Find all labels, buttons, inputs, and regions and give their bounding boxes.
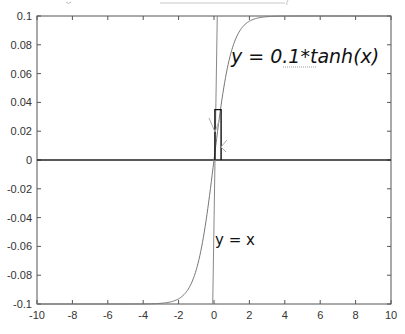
y-tick-label: -0.1	[13, 298, 32, 310]
x-tick-label: -6	[103, 309, 113, 321]
y-tick-label: 0.1	[17, 10, 32, 22]
x-tick-label: -2	[174, 309, 184, 321]
x-tick-label: -8	[68, 309, 78, 321]
x-tick-label: 10	[385, 309, 397, 321]
x-tick-label: -4	[138, 309, 148, 321]
plot-area: -10-8-6-4-20246810 0.10.080.060.040.020-…	[7, 10, 397, 321]
y-tick-label: -0.08	[7, 269, 32, 281]
y-tick-label: -0.04	[7, 212, 32, 224]
cobweb-path	[209, 110, 227, 160]
y-tick-label: 0.04	[11, 96, 32, 108]
title-fragment	[66, 0, 288, 5]
y-tick-label: 0.08	[11, 39, 32, 51]
identity-annotation: y = x	[215, 231, 255, 249]
x-tick-label: 6	[317, 309, 323, 321]
y-tick-label: 0	[26, 154, 32, 166]
chart-canvas: -10-8-6-4-20246810 0.10.080.060.040.020-…	[0, 0, 405, 334]
x-tick-label: 8	[353, 309, 359, 321]
x-tick-label: 2	[246, 309, 252, 321]
x-tick-label: -10	[29, 309, 45, 321]
x-tick-label: 4	[282, 309, 288, 321]
y-tick-label: -0.06	[7, 240, 32, 252]
y-tick-label: 0.06	[11, 68, 32, 80]
tanh-annotation: y = 0.1*tanh(x)	[230, 45, 379, 67]
y-tick-label: -0.02	[7, 183, 32, 195]
y-tick-label: 0.02	[11, 125, 32, 137]
x-tick-label: 0	[211, 309, 217, 321]
